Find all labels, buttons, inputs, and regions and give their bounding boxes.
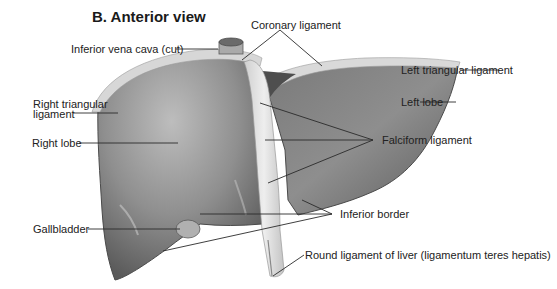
label-right-triangular-ligament-line2: ligament <box>33 108 75 120</box>
label-round-ligament: Round ligament of liver (ligamentum tere… <box>305 249 551 261</box>
right-lobe <box>92 49 262 280</box>
label-falciform-ligament: Falciform ligament <box>382 134 472 146</box>
label-left-lobe: Left lobe <box>401 96 443 108</box>
label-right-lobe: Right lobe <box>32 137 82 149</box>
label-gallbladder: Gallbladder <box>33 223 89 235</box>
label-coronary-ligament: Coronary ligament <box>251 19 341 31</box>
inferior-vena-cava-shape <box>219 38 243 54</box>
label-left-triangular-ligament: Left triangular ligament <box>401 64 513 76</box>
label-inferior-border: Inferior border <box>340 208 409 220</box>
label-inferior-vena-cava: Inferior vena cava (cut) <box>71 43 184 55</box>
figure-title: B. Anterior view <box>92 8 206 25</box>
